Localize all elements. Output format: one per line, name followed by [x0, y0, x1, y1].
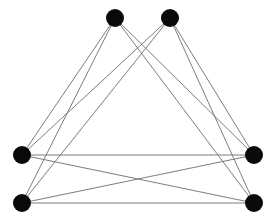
edge-layer — [22, 18, 254, 203]
graph-edge-t2-r2 — [170, 18, 254, 203]
graph-canvas — [0, 0, 278, 224]
vertex-layer — [13, 9, 263, 212]
graph-figure — [0, 0, 278, 224]
graph-edge-t2-r1 — [170, 18, 254, 155]
graph-edge-t1-r1 — [115, 18, 254, 155]
graph-edge-t1-r2 — [115, 18, 254, 203]
graph-vertex-t1 — [106, 9, 124, 27]
graph-vertex-l1 — [13, 146, 31, 164]
graph-vertex-r1 — [245, 146, 263, 164]
graph-vertex-l2 — [13, 194, 31, 212]
graph-vertex-r2 — [245, 194, 263, 212]
graph-edge-t2-l1 — [22, 18, 170, 155]
graph-edge-t1-l1 — [22, 18, 115, 155]
graph-vertex-t2 — [161, 9, 179, 27]
graph-edge-t1-l2 — [22, 18, 115, 203]
